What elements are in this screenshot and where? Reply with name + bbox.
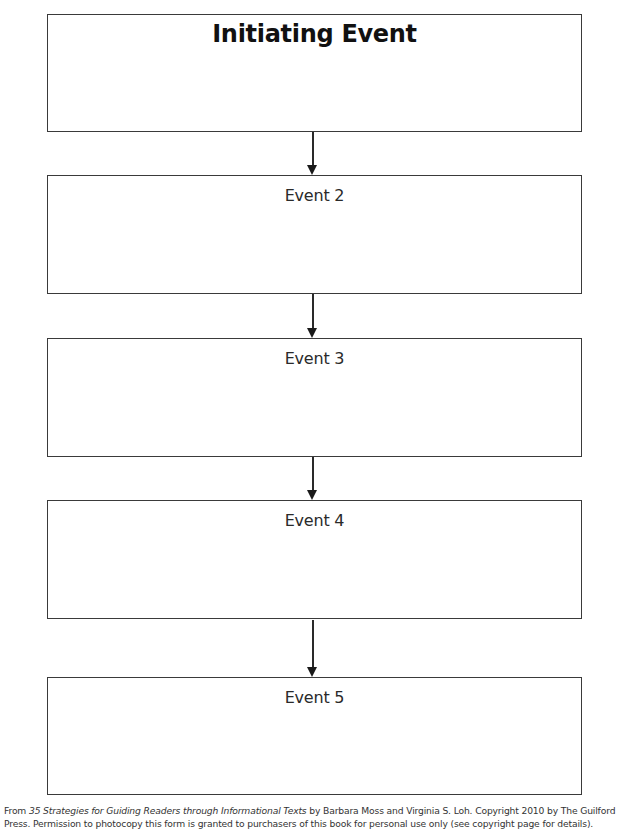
arrowhead-icon	[307, 328, 317, 338]
event-2-box: Event 2	[47, 175, 582, 294]
arrow-down-icon	[312, 620, 314, 678]
arrow-shaft	[312, 294, 314, 331]
event-3-label: Event 3	[48, 349, 581, 368]
arrow-down-icon	[312, 457, 314, 501]
arrow-down-icon	[312, 294, 314, 339]
footer-prefix: From	[4, 805, 29, 816]
initiating-event-title: Initiating Event	[48, 20, 581, 48]
arrowhead-icon	[307, 667, 317, 677]
arrowhead-icon	[307, 165, 317, 175]
initiating-event-box: Initiating Event	[47, 14, 582, 132]
event-4-label: Event 4	[48, 511, 581, 530]
arrow-shaft	[312, 132, 314, 168]
event-5-label: Event 5	[48, 688, 581, 707]
arrowhead-icon	[307, 490, 317, 500]
event-3-box: Event 3	[47, 338, 582, 457]
event-4-box: Event 4	[47, 500, 582, 619]
copyright-footer: From 35 Strategies for Guiding Readers t…	[4, 805, 620, 830]
arrow-shaft	[312, 457, 314, 493]
event-2-label: Event 2	[48, 186, 581, 205]
arrow-down-icon	[312, 132, 314, 176]
arrow-shaft	[312, 620, 314, 670]
footer-book-title: 35 Strategies for Guiding Readers throug…	[29, 805, 307, 816]
event-5-box: Event 5	[47, 677, 582, 795]
